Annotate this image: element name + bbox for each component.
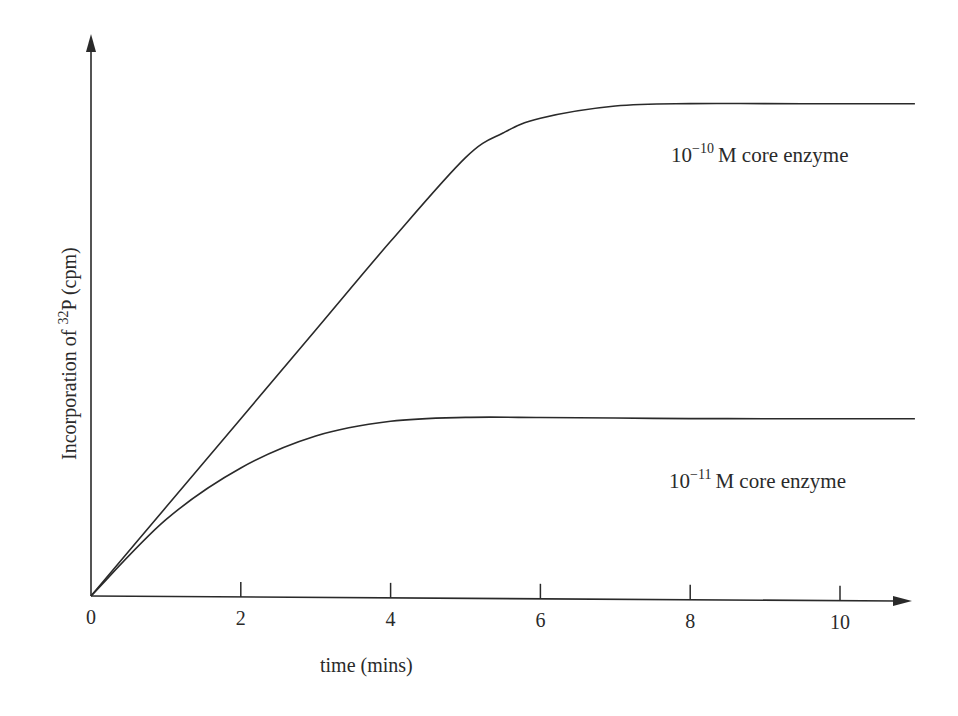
series-label-low: 10−11M core enzyme xyxy=(669,467,846,493)
y-axis-title-suffix: P (cpm) xyxy=(58,247,81,310)
x-axis xyxy=(91,596,896,601)
x-axis-arrow-icon xyxy=(893,596,912,606)
y-axis-title-sup: 32 xyxy=(56,310,71,324)
x-tick-label: 4 xyxy=(386,608,396,630)
y-axis-title: Incorporation of 32P (cpm) xyxy=(56,247,81,460)
x-tick-label: 6 xyxy=(535,609,545,631)
series-label-high-sup: −10 xyxy=(692,141,714,156)
series-layer xyxy=(91,103,915,596)
y-axis-arrow-icon xyxy=(86,34,96,52)
series-label-low-base: 10 xyxy=(669,469,690,493)
x-tick-label: 10 xyxy=(830,611,850,633)
x-ticks: 0246810 xyxy=(86,582,850,633)
y-axis-title-prefix: Incorporation of xyxy=(58,324,81,460)
series-line-low xyxy=(91,417,915,596)
chart: 0246810 time (mins) Incorporation of 32P… xyxy=(0,0,958,716)
x-axis-title: time (mins) xyxy=(320,654,413,677)
x-tick-label: 0 xyxy=(86,606,96,628)
x-tick-label: 2 xyxy=(236,607,246,629)
series-label-low-sup: −11 xyxy=(690,467,711,482)
series-label-low-text: M core enzyme xyxy=(715,469,846,493)
series-label-high-base: 10 xyxy=(671,143,692,167)
x-tick-label: 8 xyxy=(685,610,695,632)
series-label-high: 10−10M core enzyme xyxy=(671,141,849,167)
axes xyxy=(86,34,912,606)
series-line-high xyxy=(91,103,915,596)
series-label-high-text: M core enzyme xyxy=(718,143,849,167)
